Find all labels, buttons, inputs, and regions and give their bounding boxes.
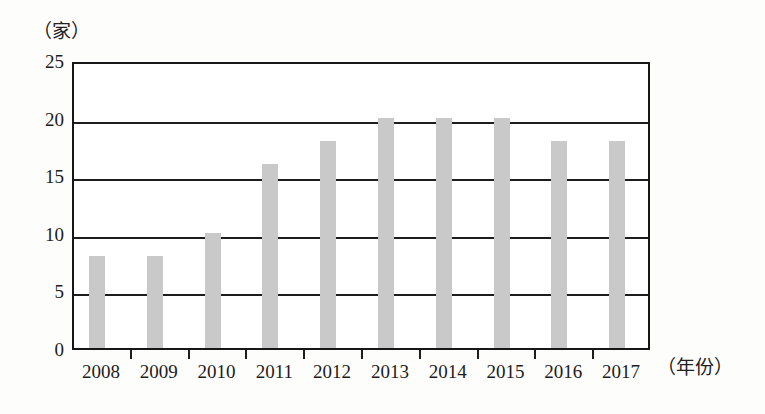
bar-cell [132,60,190,348]
bar-2013 [378,118,394,348]
x-tick-label-2015: 2015 [477,360,535,384]
x-axis-tick [361,350,363,359]
bar-cell [74,60,132,348]
bar-2014 [436,118,452,348]
x-tick-label-2016: 2016 [534,360,592,384]
bar-2009 [147,256,163,348]
x-axis-tick [477,350,479,359]
bar-2015 [494,118,510,348]
x-tick-label-2013: 2013 [361,360,419,384]
x-tick-label-2008: 2008 [72,360,130,384]
x-axis-tick [592,350,594,359]
x-tick-label-2014: 2014 [419,360,477,384]
y-tick-label: 20 [30,110,64,129]
bar-cell [247,60,305,348]
x-tick-label-2010: 2010 [188,360,246,384]
bar-cell [536,60,594,348]
x-tick-label-2012: 2012 [303,360,361,384]
y-axis-tick-labels: 0510152025 [28,0,64,414]
bar-cell [190,60,248,348]
bar-cell [305,60,363,348]
x-tick-label-2009: 2009 [130,360,188,384]
x-tick-label-2011: 2011 [245,360,303,384]
bar-2017 [609,141,625,348]
x-axis-unit-label: （年份） [657,352,733,379]
bar-series [74,64,648,348]
x-axis-tick [419,350,421,359]
bar-2010 [205,233,221,348]
bar-cell [594,60,652,348]
x-axis-tick [130,350,132,359]
y-tick-label: 15 [30,167,64,186]
x-axis-tick [534,350,536,359]
y-tick-label: 5 [30,282,64,301]
bar-2011 [262,164,278,348]
x-axis-tick [245,350,247,359]
bar-2008 [89,256,105,348]
y-tick-label: 10 [30,225,64,244]
bar-2012 [320,141,336,348]
y-tick-label: 25 [30,52,64,71]
y-tick-label: 0 [30,340,64,359]
bar-cell [363,60,421,348]
bar-2016 [551,141,567,348]
x-axis-tick [188,350,190,359]
bar-cell [479,60,537,348]
x-axis-tick [303,350,305,359]
x-tick-label-2017: 2017 [592,360,650,384]
x-axis-tick-labels: 2008200920102011201220132014201520162017 [72,360,650,390]
chart-plot-area [72,62,650,350]
bar-cell [421,60,479,348]
